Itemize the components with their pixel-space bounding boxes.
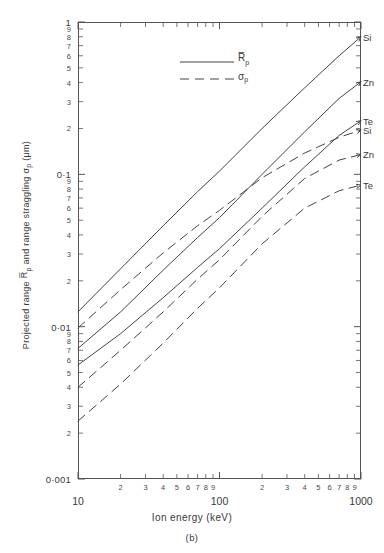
x-tick-label-minor: 2: [260, 483, 264, 492]
x-tick-label-minor: 5: [316, 483, 320, 492]
curve-Rp-Te: [78, 121, 361, 365]
x-tick-label-minor: 7: [195, 483, 199, 492]
y-tick-label-minor: 9: [67, 329, 75, 338]
curve-lines: [78, 22, 361, 479]
curve-end-label-Zn: Zn: [363, 76, 374, 87]
x-axis-title: Ion energy (keV): [14, 512, 370, 523]
legend-item-projected-range: R̅p: [178, 55, 288, 72]
y-tick-label-minor: 5: [67, 216, 75, 225]
legend-item-straggling: σp: [178, 72, 288, 89]
y-tick-label-major: 0·001: [46, 474, 75, 485]
y-tick-label-minor: 8: [67, 185, 75, 194]
curve-end-label-Zn: Zn: [363, 149, 374, 160]
x-tick-label-minor: 9: [211, 483, 215, 492]
y-tick-label-minor: 7: [67, 346, 75, 355]
y-tick-label-minor: 3: [67, 402, 75, 411]
x-tick-label-minor: 6: [328, 483, 332, 492]
curve-Rp-Zn: [78, 82, 361, 349]
y-tick-label-minor: 5: [67, 368, 75, 377]
y-tick-label-minor: 7: [67, 193, 75, 202]
curve-p-Te: [78, 185, 361, 421]
y-axis-title-wrapper: Projected range R̅p and range straggling…: [2, 90, 18, 410]
plot-area: R̅p σp: [78, 22, 361, 479]
legend-dashed-line-swatch: [178, 72, 236, 86]
legend-label-projected-range: R̅p: [238, 54, 249, 65]
figure-panel-b: 10·10·010·001234567892345678923456789 R̅…: [0, 0, 384, 553]
x-tick-label-minor: 8: [345, 483, 349, 492]
y-tick-label-minor: 4: [67, 383, 75, 392]
y-tick-label-minor: 3: [67, 97, 75, 106]
curve-end-label-Si: Si: [363, 125, 371, 136]
legend: R̅p σp: [178, 55, 288, 89]
x-tick-label-major: 100: [211, 495, 229, 507]
y-axis-title: Projected range R̅p and range straggling…: [21, 125, 31, 365]
x-tick-label-minor: 6: [186, 483, 190, 492]
y-tick-label-minor: 8: [67, 32, 75, 41]
legend-label-straggling: σp: [238, 71, 248, 82]
y-tick-label-minor: 9: [67, 177, 75, 186]
x-tick-label-minor: 2: [119, 483, 123, 492]
x-tick-label-minor: 7: [337, 483, 341, 492]
figure-caption: (b): [14, 532, 370, 543]
y-tick-label-minor: 2: [67, 276, 75, 285]
x-tick-label-major: 1000: [349, 495, 372, 507]
y-tick-label-minor: 8: [67, 337, 75, 346]
y-tick-label-minor: 9: [67, 24, 75, 33]
y-tick-label-minor: 3: [67, 249, 75, 258]
y-tick-label-minor: 4: [67, 230, 75, 239]
curve-end-labels: SiZnTeSiZnTe: [363, 22, 384, 272]
y-tick-label-minor: 2: [67, 429, 75, 438]
y-tick-label-minor: 5: [67, 63, 75, 72]
curve-end-label-Te: Te: [363, 180, 373, 191]
legend-solid-line-swatch: [178, 55, 236, 69]
x-tick-label-minor: 8: [204, 483, 208, 492]
x-tick-label-major: 10: [72, 495, 84, 507]
y-tick-label-minor: 4: [67, 78, 75, 87]
arrowhead-icon: [356, 130, 361, 134]
x-tick-label-minor: 3: [285, 483, 289, 492]
y-tick-label-minor: 6: [67, 204, 75, 213]
x-tick-label-minor: 5: [175, 483, 179, 492]
y-tick-label-minor: 7: [67, 41, 75, 50]
x-tick-label-minor: 4: [303, 483, 307, 492]
y-tick-label-minor: 6: [67, 356, 75, 365]
y-tick-label-minor: 6: [67, 51, 75, 60]
curve-end-label-Si: Si: [363, 31, 371, 42]
y-tick-label-minor: 2: [67, 124, 75, 133]
x-tick-label-minor: 4: [161, 483, 165, 492]
curve-p-Zn: [78, 154, 361, 387]
curve-p-Si: [78, 130, 361, 328]
x-tick-label-minor: 9: [352, 483, 356, 492]
x-tick-label-minor: 3: [143, 483, 147, 492]
